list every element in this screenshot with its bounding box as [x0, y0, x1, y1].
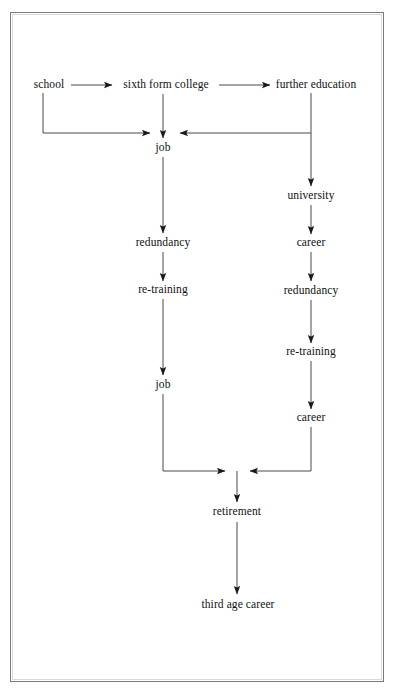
diagram-canvas: school sixth form college further educat…	[0, 0, 394, 699]
node-job-2: job	[156, 379, 171, 391]
node-re-training-2: re-training	[286, 346, 336, 358]
node-retirement: retirement	[213, 506, 261, 518]
node-career-2: career	[297, 412, 326, 424]
node-university: university	[288, 190, 335, 202]
node-career-1: career	[297, 237, 326, 249]
node-redundancy-1: redundancy	[136, 237, 191, 249]
node-school: school	[34, 79, 65, 91]
node-re-training-1: re-training	[138, 284, 188, 296]
node-third-age-career: third age career	[201, 599, 274, 611]
node-sixth-form-college: sixth form college	[123, 79, 208, 91]
node-job-1: job	[156, 142, 171, 154]
node-further-education: further education	[276, 79, 357, 91]
node-redundancy-2: redundancy	[284, 285, 339, 297]
